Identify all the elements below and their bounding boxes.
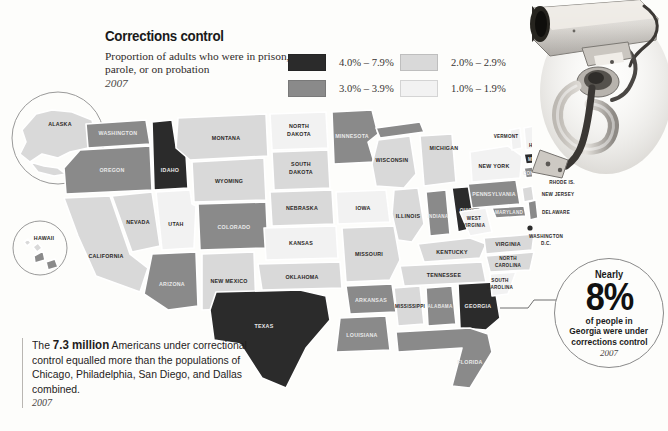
callout-line2: Georgia were under — [570, 326, 649, 337]
state-label-alaska: ALASKA — [48, 121, 72, 127]
state-label-illinois: ILLINOIS — [396, 213, 421, 219]
state-label-kentucky: KENTUCKY — [436, 249, 468, 255]
state-florida — [396, 328, 492, 388]
state-label-west-virginia: WEST — [467, 216, 481, 221]
subtitle-year: 2007 — [105, 77, 128, 89]
legend-item: 2.0% – 2.9% — [400, 54, 506, 71]
page-subtitle: Proportion of adults who were in prison,… — [105, 50, 310, 90]
state-label-tennessee: TENNESSEE — [427, 272, 462, 278]
hawaii-isl-4 — [46, 259, 58, 270]
state-label-oregon: OREGON — [99, 167, 124, 173]
camera-swivel-core — [588, 72, 604, 84]
hawaii-isl-2 — [33, 243, 42, 252]
dc-marker-icon — [527, 225, 532, 230]
state-label-michigan: MICHIGAN — [430, 145, 459, 151]
legend-label: 2.0% – 2.9% — [451, 57, 506, 68]
state-label-vermont: VERMONT — [494, 134, 519, 139]
state-label-mississippi: MISSISSIPPI — [395, 304, 425, 309]
legend-item: 1.0% – 1.9% — [400, 80, 506, 97]
state-label-alabama: ALABAMA — [428, 304, 453, 309]
legend-item: 3.0% – 3.9% — [288, 80, 394, 97]
state-label-minnesota: MINNESOTA — [335, 133, 369, 139]
state-utah — [156, 190, 196, 250]
legend-item: 4.0% – 7.9% — [288, 54, 394, 71]
state-indiana — [426, 190, 450, 236]
state-label-rhode-island: RHODE IS. — [549, 180, 575, 185]
statistic-year: 2007 — [32, 397, 248, 408]
state-label-wisconsin: WISCONSIN — [376, 157, 409, 163]
legend-label: 4.0% – 7.9% — [339, 57, 394, 68]
state-west-virginia — [460, 208, 492, 236]
state-label-south-dakota: SOUTH — [291, 161, 311, 167]
state-label-florida: FLORIDA — [457, 359, 482, 365]
state-label-dc-2: D.C. — [541, 241, 551, 246]
infographic-page: Corrections control Proportion of adults… — [0, 0, 668, 431]
state-label-south-carolina: SOUTH — [491, 278, 509, 283]
georgia-callout: Nearly 8% of people in Georgia were unde… — [554, 258, 664, 368]
callout-line1: of people in — [586, 316, 633, 327]
alaska-tail — [30, 162, 66, 176]
state-label-dc: WASHINGTON — [529, 234, 563, 239]
state-label-nevada: NEVADA — [126, 219, 149, 225]
state-michigan — [420, 134, 456, 186]
surveillance-camera-photo — [532, 0, 668, 178]
state-label-colorado: COLORADO — [218, 224, 251, 230]
state-label-wyoming: WYOMING — [215, 178, 243, 184]
state-label-maryland: MARYLAND — [495, 210, 524, 215]
state-label-new-mexico: NEW MEXICO — [210, 278, 247, 284]
state-label-south-carolina-2: CAROLINA — [487, 285, 514, 290]
legend-label: 3.0% – 3.9% — [339, 83, 394, 94]
state-label-north-carolina: NORTH — [499, 256, 517, 261]
statistic-text: The 7.3 million Americans under correcti… — [32, 338, 248, 396]
camera-mount-bolt-1 — [546, 162, 551, 167]
camera-mount-bolt-2 — [558, 168, 562, 172]
state-vermont — [510, 128, 522, 150]
callout-line3: corrections control — [571, 337, 647, 348]
subtitle-text: Proportion of adults who were in prison,… — [105, 50, 304, 75]
state-label-montana: MONTANA — [212, 135, 240, 141]
statistic-block: The 7.3 million Americans under correcti… — [22, 338, 248, 408]
stat-figure: 7.3 million — [53, 338, 109, 352]
hawaii-isl-1 — [24, 239, 31, 246]
state-label-south-dakota-2: DAKOTA — [289, 169, 313, 175]
state-label-new-york: NEW YORK — [478, 163, 509, 169]
callout-value: 8% — [585, 281, 633, 314]
page-title: Corrections control — [105, 27, 224, 45]
state-label-missouri: MISSOURI — [355, 251, 383, 257]
state-label-washington: WASHINGTON — [99, 130, 138, 136]
state-label-louisiana: LOUISIANA — [346, 332, 377, 338]
state-label-oklahoma: OKLAHOMA — [285, 274, 318, 280]
legend-swatch — [400, 80, 438, 97]
state-label-california: CALIFORNIA — [88, 253, 123, 259]
state-label-idaho: IDAHO — [161, 167, 179, 173]
state-label-arizona: ARIZONA — [159, 281, 185, 287]
state-label-texas: TEXAS — [255, 323, 274, 329]
stat-before: The — [32, 339, 53, 351]
state-label-utah: UTAH — [168, 221, 183, 227]
camera-bolt-1 — [610, 60, 614, 64]
legend-swatch — [288, 80, 326, 97]
state-label-pennsylvania: PENNSYLVANIA — [472, 191, 516, 197]
legend-swatch — [288, 54, 326, 71]
hawaii-isl-3 — [34, 251, 45, 263]
state-south-carolina — [490, 272, 516, 296]
legend-swatch — [400, 54, 438, 71]
state-label-hawaii: HAWAII — [34, 235, 55, 241]
state-label-georgia: GEORGIA — [465, 303, 492, 309]
legend-label: 1.0% – 1.9% — [451, 83, 506, 94]
state-label-indiana: INDIANA — [428, 214, 449, 219]
state-label-north-carolina-2: CAROLINA — [495, 263, 522, 268]
state-north-carolina — [486, 252, 534, 272]
state-label-delaware: DELAWARE — [542, 210, 570, 215]
state-label-west-virginia-2: VIRGINIA — [463, 223, 486, 228]
camera-screw-1 — [573, 30, 576, 33]
state-label-nebraska: NEBRASKA — [286, 205, 318, 211]
state-michigan-up — [376, 122, 424, 138]
state-new-jersey — [522, 186, 534, 202]
state-delaware — [528, 200, 538, 220]
state-label-virginia: VIRGINIA — [495, 241, 521, 247]
state-label-north-dakota: NORTH — [289, 123, 309, 129]
state-label-arkansas: ARKANSAS — [355, 297, 387, 303]
state-label-kansas: KANSAS — [289, 240, 313, 246]
state-label-new-jersey: NEW JERSEY — [542, 192, 575, 197]
